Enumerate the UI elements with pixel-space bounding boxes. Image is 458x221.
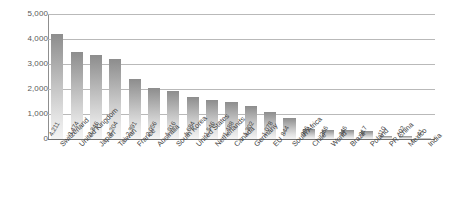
bar-group: 844 xyxy=(280,14,299,139)
y-axis-tick-label: 3,000 xyxy=(4,59,48,68)
bar-group: 2,391 xyxy=(125,14,144,139)
bar-group: 4,211 xyxy=(48,14,67,139)
bar-group: 110 xyxy=(377,14,396,139)
bar-group: 317 xyxy=(358,14,377,139)
x-axis-category-labels: SwitzerlandUnited KingdomJapanTaiwanFran… xyxy=(48,142,435,221)
bar-group: 41 xyxy=(416,14,435,139)
bar-chart: 01,0002,0003,0004,0005,000 4,2113,4743,3… xyxy=(0,0,458,221)
y-axis-tick-label: 0 xyxy=(4,134,48,143)
bar-group: 1,078 xyxy=(261,14,280,139)
bar-group: 1,916 xyxy=(164,14,183,139)
bar-group: 102 xyxy=(396,14,415,139)
y-axis-tick-label: 5,000 xyxy=(4,9,48,18)
y-axis-tick-label: 1,000 xyxy=(4,109,48,118)
y-axis: 01,0002,0003,0004,0005,000 xyxy=(0,0,48,160)
bar-group: 346 xyxy=(338,14,357,139)
y-axis-tick-label: 4,000 xyxy=(4,34,48,43)
bar-group: 2,056 xyxy=(145,14,164,139)
y-axis-tick-label: 2,000 xyxy=(4,84,48,93)
